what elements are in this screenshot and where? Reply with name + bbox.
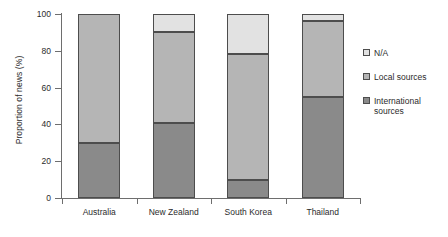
- x-tick-label-thailand: Thailand: [278, 207, 368, 217]
- bar-new-zealand: [153, 14, 195, 198]
- y-tick: [55, 88, 62, 89]
- y-tick-label: 20: [0, 156, 51, 166]
- y-tick-label: 60: [0, 83, 51, 93]
- bar-segment: [302, 14, 344, 21]
- y-tick: [55, 14, 62, 15]
- x-tick: [211, 198, 212, 204]
- bar-south-korea: [227, 14, 269, 198]
- bar-segment: [153, 123, 195, 198]
- bar-segment: [78, 143, 120, 198]
- legend-swatch-icon: [363, 49, 370, 56]
- legend-item: Local sources: [363, 72, 448, 82]
- y-tick-label: 40: [0, 119, 51, 129]
- y-tick: [55, 161, 62, 162]
- bar-segment: [227, 180, 269, 198]
- y-tick: [55, 198, 62, 199]
- legend-item: International sources: [363, 96, 448, 116]
- x-tick: [360, 198, 361, 204]
- bar-segment: [227, 14, 269, 54]
- bar-segment: [302, 21, 344, 96]
- bar-segment: [227, 54, 269, 179]
- y-tick-label: 80: [0, 46, 51, 56]
- plot-area: [62, 14, 360, 198]
- stacked-bar-chart: Proportion of news (%) 020406080100 Aust…: [0, 0, 448, 237]
- x-tick: [137, 198, 138, 204]
- legend-swatch-icon: [363, 73, 370, 80]
- y-tick: [55, 124, 62, 125]
- bar-segment: [153, 32, 195, 122]
- y-tick-label: 100: [0, 9, 51, 19]
- bar-segment: [153, 14, 195, 32]
- legend-swatch-icon: [363, 97, 370, 104]
- bar-australia: [78, 14, 120, 198]
- y-tick: [55, 51, 62, 52]
- legend-label: International sources: [374, 96, 448, 116]
- x-tick: [286, 198, 287, 204]
- chart-legend: N/ALocal sourcesInternational sources: [363, 48, 448, 130]
- x-tick: [62, 198, 63, 204]
- legend-label: Local sources: [374, 72, 426, 82]
- legend-item: N/A: [363, 48, 448, 58]
- bar-thailand: [302, 14, 344, 198]
- legend-label: N/A: [374, 48, 388, 58]
- bar-segment: [78, 14, 120, 143]
- y-tick-label: 0: [0, 193, 51, 203]
- bar-segment: [302, 97, 344, 198]
